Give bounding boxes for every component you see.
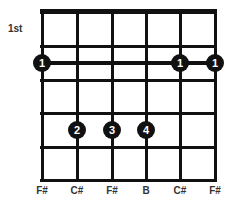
string-line-6 bbox=[214, 10, 217, 182]
string-line-1 bbox=[41, 10, 44, 182]
string-line-3 bbox=[111, 10, 114, 182]
string-line-2 bbox=[76, 10, 79, 182]
fret-line-3 bbox=[40, 112, 217, 115]
finger-dot: 3 bbox=[103, 121, 121, 139]
fret-line-4 bbox=[40, 146, 217, 149]
string-line-5 bbox=[179, 10, 182, 182]
barre-line bbox=[42, 61, 215, 65]
finger-dot: 1 bbox=[33, 54, 51, 72]
string-note-label: F# bbox=[36, 185, 48, 196]
finger-dot: 1 bbox=[206, 54, 224, 72]
string-note-label: F# bbox=[209, 185, 221, 196]
string-note-label: C# bbox=[71, 185, 84, 196]
finger-dot: 1 bbox=[171, 54, 189, 72]
fret-position-label: 1st bbox=[8, 23, 22, 34]
finger-dot: 2 bbox=[68, 121, 86, 139]
string-line-4 bbox=[145, 10, 148, 182]
nut bbox=[40, 9, 217, 14]
finger-dot: 4 bbox=[137, 121, 155, 139]
fret-line-1 bbox=[40, 45, 217, 48]
fret-line-5 bbox=[40, 179, 217, 182]
string-note-label: B bbox=[142, 185, 149, 196]
string-note-label: F# bbox=[106, 185, 118, 196]
string-note-label: C# bbox=[174, 185, 187, 196]
fret-line-2 bbox=[40, 79, 217, 82]
